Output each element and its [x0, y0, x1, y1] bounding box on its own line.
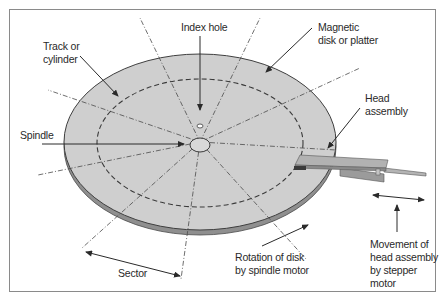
label-movement-line2: head assembly: [370, 251, 438, 264]
label-index-hole: Index hole: [181, 21, 227, 34]
spindle: [190, 138, 210, 152]
rotation-arrow: [262, 225, 308, 246]
index-hole: [197, 124, 203, 128]
label-movement-line1: Movement of: [370, 238, 438, 251]
label-track-line1: Track or: [43, 40, 80, 53]
label-magnetic-disk-line2: disk or platter: [318, 34, 378, 47]
label-track-line2: cylinder: [43, 53, 80, 66]
label-spindle: Spindle: [20, 129, 54, 142]
label-sector: Sector: [118, 267, 147, 280]
label-rotation-line1: Rotation of disk: [235, 251, 309, 264]
label-track: Track or cylinder: [43, 40, 80, 66]
label-rotation: Rotation of disk by spindle motor: [235, 251, 309, 277]
label-head-line2: assembly: [365, 105, 408, 118]
label-movement-line4: motor: [370, 277, 438, 290]
platter-arrow: [266, 28, 312, 72]
label-movement: Movement of head assembly by stepper mot…: [370, 238, 438, 290]
label-movement-line3: by stepper: [370, 264, 438, 277]
label-magnetic-disk: Magnetic disk or platter: [318, 21, 378, 47]
label-head-assembly: Head assembly: [365, 92, 408, 118]
label-magnetic-disk-line1: Magnetic: [318, 21, 378, 34]
label-rotation-line2: by spindle motor: [235, 264, 309, 277]
movement-double-arrow: [373, 195, 424, 200]
label-head-line1: Head: [365, 92, 408, 105]
